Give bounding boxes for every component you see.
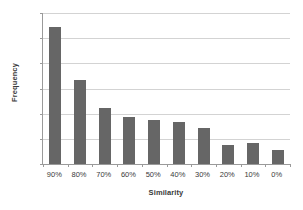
bar <box>99 108 111 164</box>
x-tick-mark <box>117 164 118 167</box>
bar-slot <box>265 13 290 164</box>
x-tick-mark <box>241 164 242 167</box>
x-tick-mark <box>43 164 44 167</box>
bar <box>173 122 185 164</box>
bar-slot <box>191 13 216 164</box>
bar-slot <box>241 13 266 164</box>
bar <box>49 27 61 164</box>
bar <box>198 128 210 164</box>
bar-slot <box>117 13 142 164</box>
x-tick-mark <box>216 164 217 167</box>
x-tick-mark <box>92 164 93 167</box>
x-tick-mark <box>290 164 291 167</box>
bar-slot <box>43 13 68 164</box>
bar <box>222 145 234 164</box>
x-axis-title: Similarity <box>42 188 290 197</box>
y-axis-title: Frequency <box>10 43 19 123</box>
bar-chart: Frequency 0%5%10%15%20%25%30% 90%80%70%6… <box>0 0 303 210</box>
bar <box>272 150 284 164</box>
x-tick-mark <box>142 164 143 167</box>
bar <box>74 80 86 164</box>
bar <box>247 143 259 164</box>
bar-slot <box>167 13 192 164</box>
x-tick-label: 0% <box>257 170 297 179</box>
x-tick-mark <box>191 164 192 167</box>
bar-slot <box>216 13 241 164</box>
bar-slot <box>92 13 117 164</box>
bar-slot <box>68 13 93 164</box>
plot-area: 0%5%10%15%20%25%30% <box>42 13 290 165</box>
x-tick-mark <box>167 164 168 167</box>
bar <box>148 120 160 164</box>
x-tick-mark <box>68 164 69 167</box>
bar-slot <box>142 13 167 164</box>
x-tick-mark <box>265 164 266 167</box>
bar <box>123 117 135 164</box>
bars-layer <box>43 13 290 164</box>
